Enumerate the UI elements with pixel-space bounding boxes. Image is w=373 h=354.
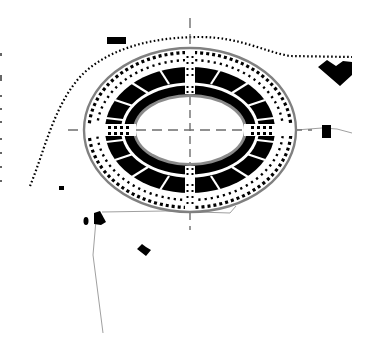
building-south-west-b [94,211,106,225]
site-plan [0,0,373,354]
building-south [137,244,151,256]
building-west-small [59,186,64,190]
building-east [322,125,331,138]
road-south [93,220,103,333]
building-south-west-c [84,217,89,225]
entrance-east [244,124,294,136]
entrance-north [185,50,195,94]
entrance-south [185,166,195,210]
building-north-east [318,60,352,86]
building-north-west [107,37,126,44]
entrance-west [86,124,136,136]
edge-marks [0,53,2,182]
